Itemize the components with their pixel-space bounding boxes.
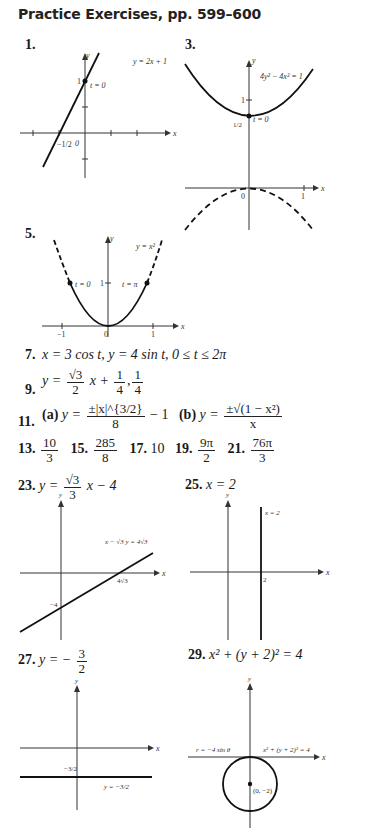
exercise-25-graph: x = 2 2 x y <box>190 500 370 645</box>
svg-text:x² + (y + 2)² = 4: x² + (y + 2)² = 4 <box>262 746 310 754</box>
exercise-27-graph: −3/2 y = −3/2 x y <box>18 685 198 820</box>
svg-text:y: y <box>109 234 114 243</box>
svg-text:1: 1 <box>301 192 305 201</box>
svg-text:−1/2: −1/2 <box>57 140 72 149</box>
exercise-29-answer: 29. x² + (y + 2)² = 4 <box>188 647 303 663</box>
svg-text:−3/2: −3/2 <box>64 765 77 773</box>
exercise-5-number: 5. <box>25 226 36 242</box>
svg-text:1: 1 <box>100 279 104 288</box>
exercise-7-answer: x = 3 cos t, y = 4 sin t, 0 ≤ t ≤ 2π <box>42 347 226 363</box>
svg-text:−1: −1 <box>57 330 66 339</box>
svg-text:1/2: 1/2 <box>233 121 242 129</box>
svg-text:y: y <box>251 56 256 65</box>
svg-text:t = 0: t = 0 <box>90 81 106 90</box>
svg-text:1: 1 <box>151 330 155 339</box>
exercise-13-21-row: 13. 103 15. 2858 17. 10 19. 9π2 21. 76π3 <box>18 436 276 464</box>
e1-curve-label: y = 2x + 1 <box>132 57 167 66</box>
exercise-9-answer: y = √32 x + 14,14 <box>42 368 145 396</box>
svg-text:0: 0 <box>241 192 245 201</box>
svg-text:x: x <box>180 322 185 331</box>
exercise-11-answer: (a) y = ±|x|^{3/2}8 − 1 (b) y = ±√(1 − x… <box>42 402 284 430</box>
svg-text:2: 2 <box>263 576 267 584</box>
svg-text:t = 0: t = 0 <box>253 115 269 124</box>
svg-text:x: x <box>320 184 325 193</box>
svg-text:t = 0: t = 0 <box>75 280 91 289</box>
exercise-7-number: 7. <box>25 347 36 363</box>
svg-text:−4: −4 <box>50 601 58 609</box>
svg-text:y: y <box>247 675 252 683</box>
svg-text:0: 0 <box>104 330 108 339</box>
svg-text:y = x²: y = x² <box>135 242 156 251</box>
e3-curve-label: 4y² − 4x² = 1 <box>260 72 303 81</box>
svg-text:1: 1 <box>77 77 81 86</box>
page-title: Practice Exercises, pp. 599–600 <box>18 6 261 22</box>
exercise-9-number: 9. <box>25 382 36 398</box>
svg-text:0: 0 <box>75 139 79 148</box>
svg-text:y: y <box>74 677 79 685</box>
exercise-29-graph: r = −4 sin θ x² + (y + 2)² = 4 (0, −2) x… <box>188 683 373 832</box>
svg-text:t = π: t = π <box>122 280 139 289</box>
svg-text:x: x <box>172 129 177 138</box>
exercise-5-graph: y = x² t = 0 t = π 1 −1 1 0 x y <box>40 235 220 340</box>
svg-text:(0, −2): (0, −2) <box>253 787 273 795</box>
svg-text:x: x <box>155 744 160 753</box>
exercise-1-graph: y = 2x + 1 t = 0 1 −1/2 0 x y <box>15 50 185 180</box>
exercise-27-answer: 27. y = − 32 <box>18 647 89 675</box>
svg-text:y: y <box>85 51 90 60</box>
svg-text:y = −3/2: y = −3/2 <box>103 783 129 791</box>
exercise-3-number: 3. <box>185 37 196 53</box>
exercise-23-graph: x − √3 y = 4√3 4√3 −4 x y <box>18 500 193 645</box>
svg-text:x: x <box>161 569 166 578</box>
svg-text:x: x <box>321 753 326 762</box>
exercise-11-number: 11. <box>18 414 35 430</box>
svg-text:x: x <box>325 568 330 577</box>
svg-text:x = 2: x = 2 <box>264 509 280 517</box>
svg-text:x − √3 y = 4√3: x − √3 y = 4√3 <box>104 538 148 546</box>
svg-text:1: 1 <box>241 96 245 105</box>
exercise-23-answer: 23. y = √33 x − 4 <box>18 473 116 501</box>
svg-text:r = −4 sin θ: r = −4 sin θ <box>196 746 231 754</box>
exercise-3-graph: 4y² − 4x² = 1 t = 0 1 1/2 1 0 x y <box>185 55 373 235</box>
svg-text:4√3: 4√3 <box>117 577 128 585</box>
